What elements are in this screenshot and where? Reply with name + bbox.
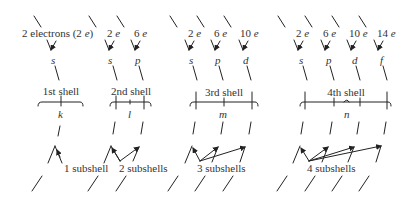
electron-label-2s: 2 e [107,28,120,39]
subshell-count-1: 1 subshell [64,163,108,174]
electron-label-4f: 14 e [377,28,396,39]
electron-label-4p: 6 e [323,28,336,39]
subshell-letter-p: p [215,55,221,66]
electron-shell-diagram: 2 electrons (2 e) s 1st shell k 1 subshe… [0,0,410,208]
quantum-letter-l: l [128,109,131,120]
quantum-letter-n: n [344,109,350,120]
electron-label-4s: 2 e [296,28,309,39]
subshell-letter-d: d [243,55,249,66]
electron-label-4d: 10 e [349,28,368,39]
subshell-letter-p: p [135,55,141,66]
quantum-letter-m: m [219,109,227,120]
subshell-letter-p: p [326,55,332,66]
subshell-count-2: 2 subshells [119,163,168,174]
subshell-letter-s: s [189,55,193,66]
subshell-letter-s: s [51,55,55,66]
shell-label-3: 3rd shell [205,87,243,98]
electron-label-3s: 2 e [188,28,201,39]
electron-label-3d: 10 e [240,28,259,39]
subshell-count-4: 4 subshells [307,163,356,174]
subshell-letter-s: s [108,55,112,66]
electron-arrows [47,40,383,50]
subshell-count-3: 3 subshells [197,163,246,174]
subshell-letter-s: s [299,55,303,66]
subshell-letter-f: f [380,55,383,66]
bottom-slashes [32,176,369,191]
shell-label-2: 2nd shell [111,86,151,97]
electron-label-2p: 6 e [134,28,147,39]
shell-label-4: 4th shell [327,87,365,98]
brace-tails [58,122,386,136]
shell-label-1: 1st shell [43,86,79,97]
quantum-letter-k: k [58,109,63,120]
top-slashes [34,16,366,27]
electron-label-3p: 6 e [214,28,227,39]
subshell-arrows [48,146,381,163]
electron-label-1s: 2 electrons (2 e) [22,28,93,39]
letter-tails [55,66,387,80]
subshell-letter-d: d [352,55,358,66]
